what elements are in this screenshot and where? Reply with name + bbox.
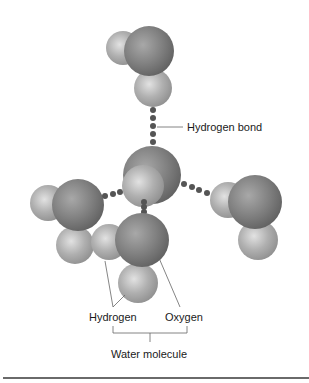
oxygen-atom: [228, 175, 282, 229]
water-molecule-label: Water molecule: [111, 348, 187, 360]
oxygen-atom: [115, 213, 169, 267]
water-molecule-right: [210, 175, 282, 260]
hydrogen-bond-label: Hydrogen bond: [187, 121, 262, 133]
oxygen-label: Oxygen: [165, 311, 203, 323]
hydrogen-bond-dots-bottom: [141, 199, 147, 215]
oxygen-atom: [52, 179, 104, 231]
water-molecule-bottom: [91, 213, 169, 303]
water-molecule-top: [106, 26, 174, 107]
hydrogen-bond-dots-right: [181, 181, 210, 196]
hydrogen-label: Hydrogen: [89, 311, 137, 323]
water-molecule-left: [30, 179, 104, 264]
water-molecule-center: [122, 146, 181, 207]
hydrogen-bond-dots-left: [102, 189, 123, 199]
bottom-divider: [3, 377, 309, 379]
hydrogen-atom: [56, 226, 94, 264]
oxygen-atom: [124, 26, 174, 76]
hydrogen-bond-dots-top: [150, 107, 156, 145]
molecule-illustration: [0, 0, 309, 383]
hydrogen-atom: [118, 263, 158, 303]
water-hydrogen-bond-diagram: Hydrogen bond Hydrogen Oxygen Water mole…: [0, 0, 309, 383]
